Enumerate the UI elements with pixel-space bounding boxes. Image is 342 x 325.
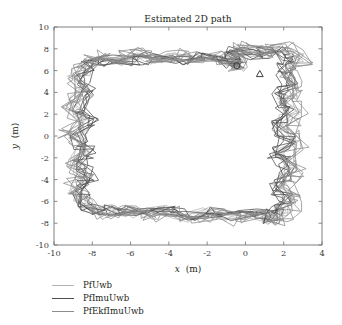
y-tick-label: 6 [44, 66, 49, 76]
x-tick-label: 0 [243, 248, 248, 258]
estimated-2d-path-chart: Estimated 2D path -10-8-6-4-2024 -10-8-6… [0, 0, 342, 325]
x-tick-label: -8 [88, 248, 96, 258]
x-tick-label: -10 [47, 248, 60, 258]
y-tick-label: 8 [44, 44, 49, 54]
y-tick-label: 2 [44, 109, 49, 119]
chart-legend: PfUwbPfImuUwbPfEkfImuUwb [52, 279, 302, 318]
y-tick-label: -4 [41, 175, 49, 185]
legend-item-label: PfImuUwb [83, 292, 129, 305]
y-tick-label: -8 [41, 218, 49, 228]
y-axis-title: y (m) [10, 123, 20, 151]
x-axis-unit: (m) [186, 264, 202, 274]
x-tick-label: -2 [203, 248, 211, 258]
x-axis-title: x (m) [175, 264, 202, 274]
y-axis-variable: y [10, 143, 20, 150]
chart-figure: Estimated 2D path -10-8-6-4-2024 -10-8-6… [0, 0, 342, 325]
chart-title: Estimated 2D path [144, 13, 231, 24]
legend-item[interactable]: PfImuUwb [52, 292, 302, 305]
x-axis-variable: x [175, 264, 180, 274]
y-tick-label: -2 [41, 153, 49, 163]
legend-item[interactable]: PfEkfImuUwb [52, 305, 302, 318]
x-tick-label: -4 [165, 248, 173, 258]
y-tick-label: 0 [44, 131, 49, 141]
x-tick-label: 4 [319, 248, 324, 258]
legend-item[interactable]: PfUwb [52, 279, 302, 292]
legend-item-label: PfEkfImuUwb [83, 305, 144, 318]
x-tick-label: -6 [127, 248, 135, 258]
legend-line-swatch [52, 298, 74, 299]
y-tick-label: -10 [36, 240, 49, 250]
legend-line-swatch [52, 311, 74, 312]
legend-item-label: PfUwb [83, 279, 112, 292]
x-tick-label: 2 [281, 248, 286, 258]
y-axis-unit: (m) [10, 123, 20, 139]
y-tick-label: 10 [39, 22, 49, 32]
legend-line-swatch [52, 285, 74, 286]
y-tick-label: 4 [44, 87, 49, 97]
y-tick-label: -6 [41, 196, 49, 206]
